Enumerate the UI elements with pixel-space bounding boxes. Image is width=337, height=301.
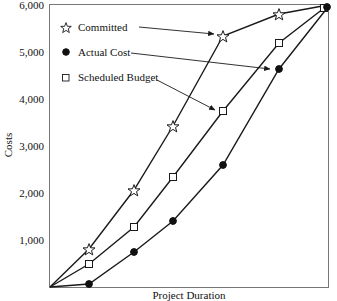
cost-curves-chart: 6,000 5,000 4,000 3,000 2,000 1,000 Cost…	[0, 0, 337, 301]
marker-square	[131, 224, 138, 231]
square-icon	[63, 75, 70, 82]
marker-circle	[86, 281, 93, 288]
marker-circle	[220, 162, 227, 169]
y-tick-label-5000: 5,000	[19, 46, 44, 58]
marker-circle	[170, 218, 177, 225]
marker-circle	[276, 66, 283, 73]
legend-label-committed: Committed	[78, 21, 128, 33]
y-tick-label-6000: 6,000	[19, 0, 44, 11]
chart-container: 6,000 5,000 4,000 3,000 2,000 1,000 Cost…	[0, 0, 337, 301]
marker-square	[170, 174, 177, 181]
marker-square	[276, 40, 283, 47]
legend-label-actual-cost: Actual Cost	[78, 46, 130, 58]
y-tick-label-2000: 2,000	[19, 187, 44, 199]
y-tick-label-4000: 4,000	[19, 93, 44, 105]
circle-icon	[63, 49, 70, 56]
legend-label-scheduled-budget: Scheduled Budget	[78, 71, 158, 83]
marker-circle	[131, 249, 138, 256]
y-axis-title: Costs	[2, 133, 14, 157]
x-axis-title: Project Duration	[152, 289, 226, 301]
marker-circle	[324, 4, 331, 11]
y-axis-ticks: 6,000 5,000 4,000 3,000 2,000 1,000	[19, 0, 44, 246]
y-tick-label-3000: 3,000	[19, 140, 44, 152]
marker-square	[220, 108, 227, 115]
marker-square	[86, 261, 93, 268]
y-tick-label-1000: 1,000	[19, 234, 44, 246]
